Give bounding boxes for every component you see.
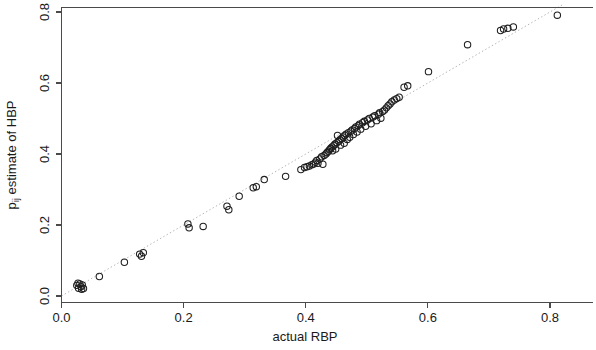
x-tick-label: 0.8 bbox=[541, 310, 559, 325]
svg-text:0.8: 0.8 bbox=[37, 3, 52, 21]
plot-canvas: 0.00.20.40.60.8 0.00.20.40.60.8 actual R… bbox=[0, 0, 596, 350]
svg-text:0.4: 0.4 bbox=[37, 145, 52, 163]
x-tick-label: 0.2 bbox=[175, 310, 193, 325]
y-tick-label: 0.2 bbox=[37, 216, 52, 234]
x-axis-title: actual RBP bbox=[272, 329, 337, 344]
x-tick-label: 0.4 bbox=[297, 310, 315, 325]
svg-text:pij estimate of HBP: pij estimate of HBP bbox=[4, 100, 21, 209]
y-axis-title-prefix: p bbox=[4, 202, 19, 209]
y-tick-label: 0.4 bbox=[37, 145, 52, 163]
y-axis-title: pij estimate of HBP bbox=[4, 100, 21, 209]
y-axis-title-rest: estimate of HBP bbox=[4, 100, 19, 198]
y-tick-label: 0.0 bbox=[37, 287, 52, 305]
x-tick-label: 0.6 bbox=[419, 310, 437, 325]
figure-background bbox=[0, 0, 596, 350]
y-tick-label: 0.6 bbox=[37, 74, 52, 92]
svg-text:0.2: 0.2 bbox=[37, 216, 52, 234]
x-tick-label: 0.0 bbox=[52, 310, 70, 325]
svg-text:0.6: 0.6 bbox=[37, 74, 52, 92]
y-tick-label: 0.8 bbox=[37, 3, 52, 21]
svg-text:0.0: 0.0 bbox=[37, 287, 52, 305]
scatter-plot-figure: 0.00.20.40.60.8 0.00.20.40.60.8 actual R… bbox=[0, 0, 596, 350]
